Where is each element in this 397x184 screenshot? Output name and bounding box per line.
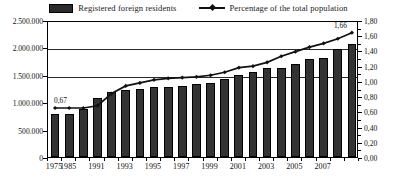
line-marker-diamond — [194, 75, 198, 79]
x-tick-mark — [344, 158, 345, 161]
x-axis-label: 1993 — [117, 162, 133, 171]
y-left-tick-label: 500.000 — [0, 126, 43, 135]
y-right-tick-label: 1,40 — [364, 47, 396, 56]
x-tick-mark — [203, 158, 204, 161]
y-left-tick-label: 2.000.000 — [0, 44, 43, 53]
y-left-tick-label: 1.000.000 — [0, 99, 43, 108]
line-marker-diamond — [251, 64, 255, 68]
x-tick-mark — [146, 158, 147, 161]
line-marker-diamond — [53, 106, 57, 110]
legend-label-line: Percentage of the total population — [230, 3, 348, 13]
x-tick-mark — [188, 158, 189, 161]
legend-label-bars: Registered foreign residents — [78, 3, 176, 13]
x-axis-label: 2001 — [230, 162, 246, 171]
legend-item-line: Percentage of the total population — [199, 3, 348, 13]
line-marker-diamond — [166, 76, 170, 80]
x-axis-label: 1991 — [88, 162, 104, 171]
x-tick-mark — [174, 158, 175, 161]
plot-area: 0,671,66 — [47, 21, 358, 158]
x-axis-label: 1995 — [145, 162, 161, 171]
y-right-tick-label: 1,20 — [364, 62, 396, 71]
line-marker-diamond — [67, 106, 71, 110]
line-marker-diamond — [180, 75, 184, 79]
x-tick-mark — [358, 158, 359, 161]
line-marker-diamond — [152, 78, 156, 82]
x-tick-mark — [273, 158, 274, 161]
x-tick-mark — [104, 158, 105, 161]
chart-root: Registered foreign residents Percentage … — [0, 0, 397, 184]
line-marker-diamond — [293, 50, 297, 54]
y-right-tick-label: 1,60 — [364, 32, 396, 41]
data-label: 0,67 — [54, 96, 67, 105]
x-tick-mark — [259, 158, 260, 161]
y-right-tick-label: 0,20 — [364, 138, 396, 147]
x-tick-mark — [245, 158, 246, 161]
line-marker-diamond — [81, 106, 85, 110]
x-tick-mark — [301, 158, 302, 161]
line-diamond-icon — [199, 4, 225, 12]
x-axis-label: 2003 — [258, 162, 274, 171]
x-axis-label: 1985 — [60, 162, 76, 171]
y-right-tick-label: 1,00 — [364, 77, 396, 86]
x-axis-labels: 1975198519911993199519971999200120032005… — [0, 162, 397, 182]
x-tick-mark — [47, 158, 48, 161]
line-path — [55, 33, 352, 108]
y-left-tick-label: 2.500.000 — [0, 17, 43, 26]
x-axis-label: 1997 — [173, 162, 189, 171]
y-right-tick-label: 0,80 — [364, 93, 396, 102]
chart-legend: Registered foreign residents Percentage … — [0, 1, 397, 15]
x-tick-mark — [89, 158, 90, 161]
x-tick-mark — [132, 158, 133, 161]
line-marker-diamond — [322, 41, 326, 45]
y-right-tick-label: 1,80 — [364, 17, 396, 26]
legend-item-bars: Registered foreign residents — [49, 3, 176, 13]
x-tick-mark — [118, 158, 119, 161]
line-marker-diamond — [223, 70, 227, 74]
x-tick-mark — [231, 158, 232, 161]
y-right-tick-label: 0,60 — [364, 108, 396, 117]
x-tick-mark — [217, 158, 218, 161]
y-left-tick-label: 1.500.000 — [0, 71, 43, 80]
line-marker-diamond — [208, 73, 212, 77]
line-marker-diamond — [307, 45, 311, 49]
line-series — [48, 22, 359, 159]
x-tick-mark — [61, 158, 62, 161]
line-marker-diamond — [138, 81, 142, 85]
bar-swatch-icon — [49, 4, 73, 13]
x-tick-mark — [330, 158, 331, 161]
data-label: 1,66 — [334, 21, 347, 30]
x-tick-mark — [287, 158, 288, 161]
x-axis-label: 2007 — [314, 162, 330, 171]
x-tick-mark — [160, 158, 161, 161]
line-marker-diamond — [237, 66, 241, 70]
x-tick-mark — [75, 158, 76, 161]
x-axis-label: 1999 — [201, 162, 217, 171]
x-axis-label: 2005 — [286, 162, 302, 171]
y-right-tick-label: 0,40 — [364, 123, 396, 132]
x-tick-mark — [316, 158, 317, 161]
